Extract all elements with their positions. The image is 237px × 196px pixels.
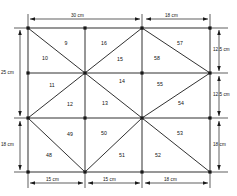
diagonal-m1 xyxy=(28,73,85,118)
element-label-10: 10 xyxy=(42,55,48,61)
arrow-icon xyxy=(217,66,221,71)
dimension-label-right-2: 12.5 cm xyxy=(213,92,230,97)
arrow-icon xyxy=(217,111,221,116)
arrow-icon xyxy=(18,165,22,170)
arrow-icon xyxy=(217,121,221,126)
arrow-icon xyxy=(217,165,221,170)
dimension-arrowheads xyxy=(18,17,221,185)
diagonal-u2 xyxy=(85,28,142,73)
dimension-label-top-left: 30 cm xyxy=(71,13,84,18)
arrow-icon xyxy=(135,181,140,185)
dimension-label-right-1: 12.5 cm xyxy=(213,47,230,52)
arrow-icon xyxy=(88,181,93,185)
diagonal-u1 xyxy=(28,28,85,73)
node xyxy=(83,71,86,74)
element-label-49: 49 xyxy=(67,131,73,137)
arrow-icon xyxy=(203,181,208,185)
arrow-icon xyxy=(78,181,83,185)
diagonal-l2 xyxy=(85,118,142,172)
element-label-13: 13 xyxy=(102,100,108,106)
element-label-16: 16 xyxy=(101,40,107,46)
node xyxy=(140,71,143,74)
mesh-drawing xyxy=(0,0,237,196)
element-label-12: 12 xyxy=(67,101,73,107)
dimension-label-bottom-1: 15 cm xyxy=(46,177,59,182)
arrow-icon xyxy=(18,121,22,126)
element-label-57: 57 xyxy=(177,40,183,46)
element-label-54: 54 xyxy=(178,100,184,106)
arrow-icon xyxy=(145,181,150,185)
element-label-53: 53 xyxy=(177,130,183,136)
arrow-icon xyxy=(18,30,22,35)
element-label-51: 51 xyxy=(119,152,125,158)
dimension-label-left-lower: 18 cm xyxy=(1,142,14,147)
arrow-icon xyxy=(217,76,221,81)
dimension-label-top-right: 18 cm xyxy=(165,13,178,18)
element-label-14: 14 xyxy=(119,78,125,84)
element-label-50: 50 xyxy=(101,130,107,136)
element-label-15: 15 xyxy=(117,56,123,62)
arrow-icon xyxy=(30,181,35,185)
arrow-icon xyxy=(217,30,221,35)
arrow-icon xyxy=(135,17,140,21)
diagonal-m3 xyxy=(142,73,210,118)
node xyxy=(83,26,86,29)
mesh-figure: 30 cm 18 cm 15 cm 15 cm 18 cm 25 cm 18 c… xyxy=(0,0,237,196)
node xyxy=(83,116,86,119)
node xyxy=(26,71,29,74)
element-label-52: 52 xyxy=(155,152,161,158)
element-label-55: 55 xyxy=(157,81,163,87)
arrow-icon xyxy=(30,17,35,21)
element-label-48: 48 xyxy=(46,152,52,158)
arrow-icon xyxy=(146,17,151,21)
node xyxy=(140,116,143,119)
arrow-icon xyxy=(18,111,22,116)
arrow-icon xyxy=(203,17,208,21)
dimension-label-bottom-2: 15 cm xyxy=(103,177,116,182)
element-label-58: 58 xyxy=(154,55,160,61)
element-label-9: 9 xyxy=(65,40,68,46)
dimension-label-left-upper: 25 cm xyxy=(1,70,14,75)
dimension-label-right-3: 18 cm xyxy=(213,142,226,147)
diagonal-m2 xyxy=(85,73,142,118)
diagonal-l1 xyxy=(28,118,85,172)
dimension-label-bottom-3: 18 cm xyxy=(164,177,177,182)
diagonal-l3 xyxy=(142,118,210,172)
diagonal-u3 xyxy=(142,28,210,73)
element-label-11: 11 xyxy=(49,82,54,88)
